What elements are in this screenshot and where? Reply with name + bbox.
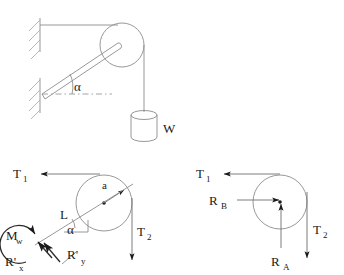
weight-label: W [163, 121, 176, 136]
fbd-beam-labels: T 1 T 2 a L α M w R' x R' y [5, 166, 152, 273]
fbd-pulley-RA-sub: A [283, 262, 290, 272]
fbd-pulley-T1-label: T [196, 166, 204, 181]
physical-setup-panel: α W [29, 18, 176, 142]
fbd-pulley-panel: T 1 T 2 R B R A [196, 166, 328, 272]
fbd-pulley-center-dot [278, 200, 282, 204]
inclined-beam [42, 43, 122, 99]
fbd-beam-T2-label: T [137, 224, 145, 239]
fbd-beam-radius-label: a [102, 179, 107, 191]
angle-arc [70, 74, 73, 94]
diagram-canvas: α W [0, 0, 344, 275]
fbd-beam-Rx-label: R' [5, 254, 16, 269]
fbd-pulley-T2-label: T [313, 222, 321, 237]
fbd-beam-T2-sub: 2 [147, 232, 152, 242]
fbd-pulley-RA-label: R [271, 254, 280, 269]
fbd-beam-Ry-sub: y [81, 256, 86, 266]
fbd-beam-T1-label: T [13, 166, 21, 181]
fbd-pulley-RB-label: R [209, 193, 218, 208]
fbd-beam-angle-label: α [67, 222, 74, 237]
fbd-beam-length-label: L [60, 207, 68, 222]
fbd-beam-moment-sub: w [16, 236, 23, 246]
fbd-beam-T1-sub: 1 [23, 174, 28, 184]
fbd-beam-axis-line [35, 184, 133, 245]
fbd-beam-Ry-label: R' [67, 247, 78, 262]
fbd-pulley-T1-sub: 1 [206, 174, 211, 184]
figure-root: α W [0, 0, 344, 275]
fbd-beam-Rx-sub: x [19, 263, 24, 273]
wall-support-lower [29, 78, 40, 119]
fbd-pulley-RB-sub: B [221, 201, 227, 211]
weight-cylinder [131, 111, 157, 142]
fbd-pulley-circle [253, 175, 307, 229]
wall-support-upper [29, 18, 40, 59]
fbd-pulley-T2-sub: 2 [323, 230, 328, 240]
fbd-beam-panel: T 1 T 2 a L α M w R' x R' y [0, 166, 151, 273]
setup-angle-label: α [74, 79, 81, 94]
pulley-wheel [100, 23, 144, 67]
